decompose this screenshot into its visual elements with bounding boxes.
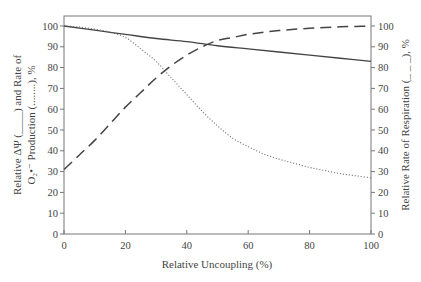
left-y-tick-label: 100 — [42, 21, 58, 32]
left-y-tick-label: 70 — [48, 83, 59, 94]
series-layer — [64, 26, 371, 178]
plot-frame — [64, 16, 371, 234]
plot-border — [64, 16, 371, 234]
left-y-tick-label: 10 — [48, 208, 59, 219]
series-solid-line — [64, 26, 371, 61]
x-axis-title: Relative Uncoupling (%) — [162, 258, 273, 271]
right-y-tick-label: 10 — [378, 208, 389, 219]
right-y-tick-label: 100 — [378, 21, 394, 32]
left-y-axis-title-line1: Relative ΔΨ (____) and Rate of — [11, 55, 24, 195]
right-y-tick-label: 80 — [378, 62, 389, 73]
x-tick-label: 60 — [243, 240, 254, 251]
series-dashed-line — [64, 26, 371, 170]
left-y-tick-label: 30 — [48, 166, 59, 177]
right-y-tick-label: 20 — [378, 187, 389, 198]
chart: 0010102020303040405050606070708080909010… — [0, 0, 421, 282]
right-y-tick-label: 60 — [378, 104, 389, 115]
series-dotted-line — [64, 26, 371, 178]
x-tick-label: 80 — [304, 240, 315, 251]
right-y-axis-title: Relative Rate of Respiration (_ _ _), % — [399, 39, 412, 211]
left-y-tick-label: 60 — [48, 104, 59, 115]
right-y-tick-label: 0 — [378, 229, 383, 240]
left-y-tick-label: 80 — [48, 62, 59, 73]
right-y-tick-label: 40 — [378, 145, 389, 156]
right-y-tick-label: 90 — [378, 41, 389, 52]
x-tick-label: 40 — [182, 240, 193, 251]
left-y-tick-label: 40 — [48, 145, 59, 156]
left-y-tick-label: 50 — [48, 125, 59, 136]
left-y-tick-label: 90 — [48, 41, 59, 52]
right-y-tick-label: 70 — [378, 83, 389, 94]
x-tick-label: 100 — [363, 240, 379, 251]
left-y-axis-title-line2: O₂•⁻ Production (........), % — [25, 65, 38, 184]
left-y-tick-label: 0 — [53, 229, 58, 240]
x-tick-label: 20 — [120, 240, 131, 251]
left-y-tick-label: 20 — [48, 187, 59, 198]
x-tick-label: 0 — [61, 240, 66, 251]
right-y-tick-label: 30 — [378, 166, 389, 177]
ticks-layer: 0010102020303040405050606070708080909010… — [42, 21, 394, 252]
right-y-tick-label: 50 — [378, 125, 389, 136]
